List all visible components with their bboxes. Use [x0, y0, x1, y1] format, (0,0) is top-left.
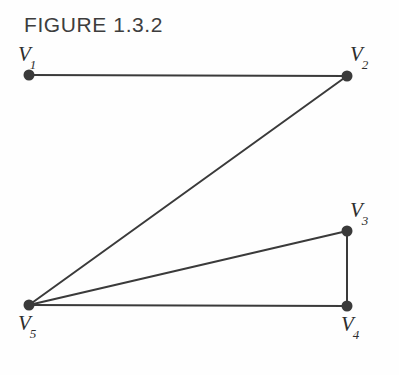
vertex-label-subscript: 1 [30, 57, 37, 72]
graph-edge [29, 305, 347, 306]
vertex-label-subscript: 3 [362, 213, 369, 228]
vertex-label-base: V [350, 198, 363, 222]
vertex-label-base: V [18, 42, 31, 66]
vertex-label-subscript: 2 [362, 57, 369, 72]
graph-vertex [24, 300, 35, 311]
vertex-label: V2 [350, 44, 369, 68]
vertex-label: V1 [18, 44, 37, 68]
graph-edge [29, 231, 347, 305]
graph-vertex [342, 226, 353, 237]
graph-vertex [342, 71, 353, 82]
vertex-label-base: V [341, 312, 354, 336]
vertex-label: V5 [18, 313, 37, 337]
vertex-label-subscript: 4 [353, 327, 360, 342]
vertex-label-subscript: 5 [30, 326, 37, 341]
vertex-label-base: V [350, 42, 363, 66]
graph-edge [29, 76, 347, 305]
graph-vertex [342, 301, 353, 312]
graph-edge [29, 75, 347, 76]
figure-container: FIGURE 1.3.2 V1V2V3V4V5 [0, 0, 399, 375]
graph-canvas [0, 0, 399, 375]
vertex-label: V4 [341, 314, 360, 338]
vertex-label: V3 [350, 200, 369, 224]
vertex-label-base: V [18, 311, 31, 335]
edge-layer [29, 75, 347, 306]
